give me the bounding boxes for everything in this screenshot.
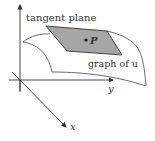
x-axis-label: x	[70, 121, 76, 132]
tangent-plane	[46, 26, 122, 55]
tangent-plane-label: tangent plane	[26, 12, 96, 23]
point-p-label: P	[89, 35, 98, 46]
point-p-dot	[84, 38, 87, 41]
y-axis-label: y	[107, 83, 114, 94]
graph-of-u-label: graph of u	[88, 58, 138, 69]
tangent-plane-diagram: tangent plane P graph of u y x	[0, 0, 155, 141]
